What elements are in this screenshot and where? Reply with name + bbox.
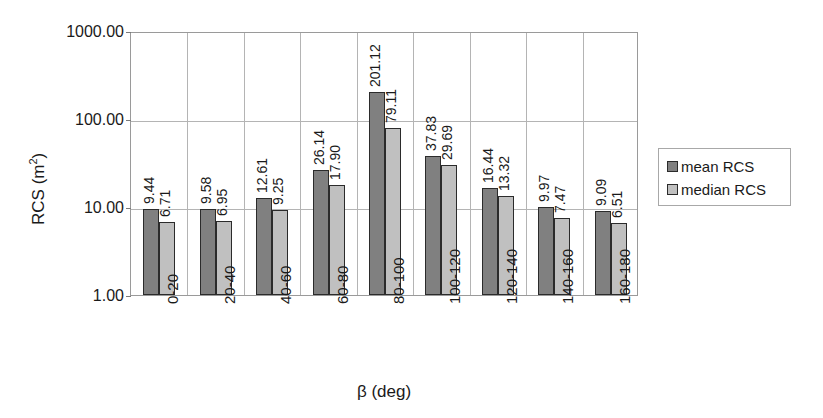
legend-label: mean RCS <box>681 159 754 174</box>
x-tick-label: 140-160 <box>560 249 575 304</box>
bar-value-label: 79.11 <box>384 89 398 123</box>
x-tick-label: 0-20 <box>165 274 180 304</box>
bar-mean[interactable] <box>425 156 441 295</box>
y-axis-title-tail: ) <box>29 153 48 159</box>
legend-item[interactable]: median RCS <box>667 179 790 200</box>
y-tick-mark <box>126 120 131 121</box>
bar-value-label: 37.83 <box>424 116 438 151</box>
vertical-gridline <box>526 33 527 295</box>
bar-value-label: 26.14 <box>312 130 326 165</box>
y-axis-title-exponent: 2 <box>27 158 39 164</box>
y-axis-title: RCS (m2) <box>27 109 49 269</box>
bar-value-label: 6.51 <box>610 191 624 218</box>
bar-value-label: 201.12 <box>368 44 382 87</box>
bar-value-label: 9.58 <box>199 176 213 203</box>
x-tick-label: 80-100 <box>391 257 406 304</box>
legend-swatch-median <box>667 184 678 195</box>
bar-group: 12.619.25 <box>256 33 288 295</box>
bar-value-label: 9.97 <box>537 175 551 202</box>
bar-value-label: 13.32 <box>497 156 511 191</box>
bar-value-label: 6.71 <box>158 190 172 217</box>
vertical-gridline <box>244 33 245 295</box>
bar-mean[interactable] <box>538 207 554 295</box>
bar-group: 9.586.95 <box>200 33 232 295</box>
x-tick-label: 160-180 <box>617 249 632 304</box>
bar-value-label: 12.61 <box>255 158 269 193</box>
vertical-gridline <box>357 33 358 295</box>
bar-value-label: 17.90 <box>328 145 342 180</box>
bar-group: 9.446.71 <box>143 33 175 295</box>
bar-group: 26.1417.90 <box>313 33 345 295</box>
bar-value-label: 9.25 <box>271 178 285 205</box>
x-tick-label: 100-120 <box>447 249 462 304</box>
bar-mean[interactable] <box>482 188 498 295</box>
y-tick-label: 100.00 <box>4 112 124 128</box>
vertical-gridline <box>187 33 188 295</box>
y-tick-mark <box>126 208 131 209</box>
y-tick-label: 1000.00 <box>4 24 124 40</box>
legend-swatch-mean <box>667 161 678 172</box>
x-tick-label: 60-80 <box>335 266 350 304</box>
y-tick-mark <box>126 32 131 33</box>
bar-value-label: 29.69 <box>440 125 454 160</box>
legend-item[interactable]: mean RCS <box>667 156 790 177</box>
bar-mean[interactable] <box>595 211 611 295</box>
y-tick-label: 1.00 <box>4 288 124 304</box>
y-axis-title-text: RCS (m <box>29 165 48 225</box>
vertical-gridline <box>583 33 584 295</box>
x-tick-label: 120-140 <box>504 249 519 304</box>
rcs-bar-chart: 1000.00100.0010.001.00 RCS (m2) 9.446.71… <box>0 0 823 418</box>
bar-value-label: 9.44 <box>142 177 156 204</box>
vertical-gridline <box>413 33 414 295</box>
bar-mean[interactable] <box>256 198 272 295</box>
chart-legend: mean RCSmedian RCS <box>658 148 791 206</box>
bar-mean[interactable] <box>143 209 159 295</box>
bar-value-label: 6.95 <box>215 189 229 216</box>
bar-mean[interactable] <box>313 170 329 295</box>
y-tick-label: 10.00 <box>4 200 124 216</box>
legend-label: median RCS <box>681 182 766 197</box>
vertical-gridline <box>300 33 301 295</box>
bar-value-label: 16.44 <box>481 148 495 183</box>
y-tick-mark <box>126 296 131 297</box>
x-tick-label: 40-60 <box>278 266 293 304</box>
bar-value-label: 7.47 <box>553 186 567 213</box>
bar-value-label: 9.09 <box>594 178 608 205</box>
x-axis-title: β (deg) <box>130 382 638 402</box>
bar-mean[interactable] <box>200 209 216 295</box>
x-tick-label: 20-40 <box>222 266 237 304</box>
y-axis-ticks: 1000.00100.0010.001.00 <box>0 0 124 418</box>
bar-group: 201.1279.11 <box>369 33 401 295</box>
vertical-gridline <box>470 33 471 295</box>
